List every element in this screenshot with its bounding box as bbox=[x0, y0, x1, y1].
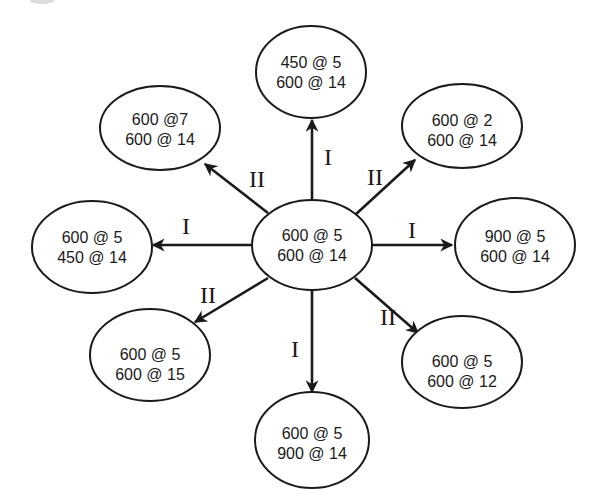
node-top-left: 600 @7 600 @ 14 bbox=[100, 86, 220, 170]
node-top: 450 @ 5 600 @ 14 bbox=[256, 26, 366, 118]
node-top-right-line2: 600 @ 14 bbox=[427, 132, 497, 149]
edge-label-right: I bbox=[408, 217, 416, 243]
node-right: 900 @ 5 600 @ 14 bbox=[455, 198, 575, 292]
node-top-right-line1: 600 @ 2 bbox=[432, 112, 493, 129]
node-bottom-right: 600 @ 5 600 @ 12 bbox=[402, 316, 522, 408]
node-bottom: 600 @ 5 900 @ 14 bbox=[255, 392, 369, 488]
node-bottom-left-line1: 600 @ 5 bbox=[120, 346, 181, 363]
edge-label-bottom-right: II bbox=[380, 304, 396, 330]
node-right-line2: 600 @ 14 bbox=[480, 248, 550, 265]
node-left-line1: 600 @ 5 bbox=[62, 229, 123, 246]
node-center-line1: 600 @ 5 bbox=[282, 227, 343, 244]
edge-label-top: I bbox=[324, 144, 332, 170]
edge-label-bottom-left: II bbox=[200, 282, 216, 308]
node-center-line2: 600 @ 14 bbox=[277, 247, 347, 264]
edge-label-top-left: II bbox=[249, 166, 265, 192]
node-right-line1: 900 @ 5 bbox=[485, 228, 546, 245]
node-top-left-line2: 600 @ 14 bbox=[125, 131, 195, 148]
node-top-right: 600 @ 2 600 @ 14 bbox=[402, 84, 522, 168]
edge-top-right bbox=[355, 160, 415, 215]
edge-label-bottom: I bbox=[291, 336, 299, 362]
node-bottom-left: 600 @ 5 600 @ 15 bbox=[90, 309, 210, 401]
edge-label-top-right: II bbox=[367, 164, 383, 190]
node-center: 600 @ 5 600 @ 14 bbox=[252, 200, 372, 290]
node-left: 600 @ 5 450 @ 14 bbox=[32, 201, 152, 293]
node-bottom-line2: 900 @ 14 bbox=[277, 445, 347, 462]
node-top-left-line1: 600 @7 bbox=[132, 111, 188, 128]
scan-artifact bbox=[30, 0, 54, 4]
node-top-line1: 450 @ 5 bbox=[281, 54, 342, 71]
node-bottom-line1: 600 @ 5 bbox=[282, 425, 343, 442]
edge-label-left: I bbox=[182, 213, 190, 239]
hub-diagram: I II I II I II I II 600 @ 5 600 @ 14 450… bbox=[0, 0, 605, 501]
node-left-line2: 450 @ 14 bbox=[57, 249, 127, 266]
node-bottom-right-line1: 600 @ 5 bbox=[432, 353, 493, 370]
node-bottom-right-line2: 600 @ 12 bbox=[427, 373, 497, 390]
node-bottom-left-line2: 600 @ 15 bbox=[115, 366, 185, 383]
node-top-line2: 600 @ 14 bbox=[276, 74, 346, 91]
